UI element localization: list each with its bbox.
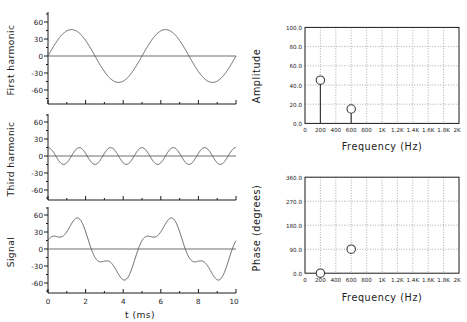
y-tick-label: 60 (34, 118, 44, 127)
y-axis-label: Signal (5, 237, 16, 268)
y-tick-label: 0 (38, 245, 43, 254)
y-axis-ticks (44, 208, 48, 291)
y-tick-label: 60.0 (290, 63, 303, 69)
y-tick-label: -30 (31, 169, 43, 178)
x-tick-label: 2 (83, 297, 88, 306)
y-tick-label: 0.0 (293, 271, 302, 277)
phase-spectrum-plot: Phase (degrees) 360.0 270.0 180.0 90.0 0… (246, 168, 467, 318)
x-tick-labels: 0 2 4 6 8 10 (46, 297, 239, 306)
panel-signal: Signal 60 30 0 -30 -60 (0, 206, 236, 322)
signal-plot: Signal 60 30 0 -30 -60 (0, 206, 236, 322)
y-tick-label: 60 (34, 211, 44, 220)
y-tick-label: -30 (31, 69, 43, 78)
x-tick-label: 1K (378, 127, 386, 133)
first-harmonic-plot: First harmonic 60 30 0 -30 -60 (0, 8, 236, 112)
x-tick-label: 800 (361, 277, 372, 283)
y-tick-label: -60 (31, 186, 43, 195)
x-tick-label: 6 (159, 297, 164, 306)
y-tick-label: 30 (34, 135, 44, 144)
x-tick-label: 10 (229, 297, 239, 306)
amplitude-spectrum-plot: Amplitude 100.0 80.0 60.0 40.0 20.0 0.0 (246, 14, 467, 160)
x-axis-label: Frequency (Hz) (342, 141, 423, 152)
y-tick-label: 0 (38, 152, 43, 161)
x-tick-label: 0 (303, 277, 307, 283)
y-tick-label: 30 (34, 35, 44, 44)
y-tick-labels: 100.0 80.0 60.0 40.0 20.0 0.0 (286, 25, 302, 127)
panel-amplitude-spectrum: Amplitude 100.0 80.0 60.0 40.0 20.0 0.0 (246, 14, 467, 160)
y-axis-label: Amplitude (251, 49, 262, 104)
y-axis-label: First harmonic (5, 25, 16, 96)
x-tick-label: 1.4K (407, 277, 420, 283)
data-marker (316, 76, 324, 84)
panel-first-harmonic: First harmonic 60 30 0 -30 -60 (0, 8, 236, 112)
y-tick-label: 90.0 (290, 247, 303, 253)
y-tick-label: -30 (31, 262, 43, 271)
x-tick-label: 2K (453, 127, 461, 133)
y-tick-labels: 60 30 0 -30 -60 (31, 118, 43, 195)
y-tick-label: -60 (31, 86, 43, 95)
y-tick-labels: 60 30 0 -30 -60 (31, 18, 43, 95)
x-axis-label: t (ms) (125, 309, 155, 320)
data-marker (347, 105, 355, 113)
y-tick-labels: 360.0 270.0 180.0 90.0 0.0 (286, 175, 302, 277)
x-tick-label: 4 (121, 297, 126, 306)
x-tick-label: 0 (46, 297, 51, 306)
x-tick-label: 400 (330, 277, 341, 283)
y-axis-label: Third harmonic (5, 121, 16, 197)
y-tick-label: 30 (34, 228, 44, 237)
x-tick-label: 1.6K (422, 127, 435, 133)
x-tick-label: 600 (346, 127, 357, 133)
grid-lines (305, 27, 459, 123)
x-tick-labels: 0 200 400 600 800 1K 1.2K 1.4K 1.6K 1.8K… (303, 127, 461, 133)
y-tick-label: 80.0 (290, 44, 303, 50)
y-tick-labels: 60 30 0 -30 -60 (31, 211, 43, 288)
x-tick-label: 1.6K (422, 277, 435, 283)
x-tick-label: 600 (346, 277, 357, 283)
x-axis-ticks (48, 289, 236, 293)
panel-phase-spectrum: Phase (degrees) 360.0 270.0 180.0 90.0 0… (246, 168, 467, 318)
y-axis-label: Phase (degrees) (251, 185, 262, 272)
x-tick-label: 0 (303, 127, 307, 133)
y-axis-label-group: First harmonic (5, 25, 16, 96)
x-tick-label: 1.2K (391, 277, 404, 283)
y-tick-label: 0 (38, 52, 43, 61)
y-tick-label: 60 (34, 18, 44, 27)
y-axis-ticks (44, 115, 48, 198)
grid-lines (305, 177, 459, 273)
y-tick-label: 40.0 (290, 83, 303, 89)
third-harmonic-plot: Third harmonic 60 30 0 -30 -60 (0, 112, 236, 206)
data-marker (347, 245, 355, 253)
y-tick-label: 0.0 (293, 121, 302, 127)
x-tick-label: 200 (315, 277, 326, 283)
x-tick-label: 1.2K (391, 127, 404, 133)
y-tick-label: 270.0 (286, 199, 302, 205)
panel-third-harmonic: Third harmonic 60 30 0 -30 -60 (0, 112, 236, 206)
x-tick-label: 1.4K (407, 127, 420, 133)
x-axis-ticks (48, 196, 236, 200)
x-tick-label: 1.8K (437, 277, 450, 283)
x-tick-labels: 0 200 400 600 800 1K 1.2K 1.4K 1.6K 1.8K… (303, 277, 461, 283)
x-tick-label: 1.8K (437, 127, 450, 133)
x-tick-label: 400 (330, 127, 341, 133)
x-axis-ticks (48, 100, 236, 104)
y-tick-label: 180.0 (286, 223, 302, 229)
x-axis-label: Frequency (Hz) (342, 292, 423, 303)
x-tick-label: 800 (361, 127, 372, 133)
y-tick-label: -60 (31, 279, 43, 288)
y-axis-ticks (44, 14, 48, 99)
y-tick-label: 20.0 (290, 102, 303, 108)
x-tick-label: 200 (315, 127, 326, 133)
x-tick-label: 1K (378, 277, 386, 283)
figure-canvas: First harmonic 60 30 0 -30 -60 (0, 0, 467, 322)
y-tick-label: 100.0 (286, 25, 302, 31)
x-tick-label: 2K (453, 277, 461, 283)
x-tick-label: 8 (196, 297, 201, 306)
y-tick-label: 360.0 (286, 175, 302, 181)
